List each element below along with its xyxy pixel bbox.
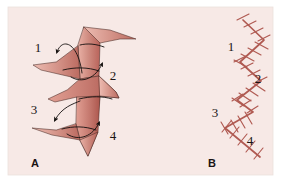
panel-b-callout-4: 4 xyxy=(247,133,254,148)
panel-b-letter: B xyxy=(208,157,216,169)
panel-a-callout-3: 3 xyxy=(31,102,38,117)
panel-a-callout-4: 4 xyxy=(110,128,117,143)
panel-a-callout-1: 1 xyxy=(35,40,42,55)
panel-b-callout-1: 1 xyxy=(228,39,235,54)
panel-a-letter: A xyxy=(31,157,39,169)
panel-b-callout-3: 3 xyxy=(212,105,219,120)
figure-canvas: 1 2 3 4 A xyxy=(0,0,281,185)
figure-root: 1 2 3 4 A xyxy=(0,0,281,185)
panel-b-callout-2: 2 xyxy=(255,71,262,86)
panel-background xyxy=(8,7,273,175)
panel-a-callout-2: 2 xyxy=(110,68,117,83)
